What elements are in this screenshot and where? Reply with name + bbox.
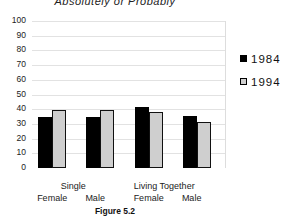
x-group-label: Living Together — [134, 181, 195, 191]
bar-1984-3 — [183, 116, 197, 168]
chart-title: Absolutely or Probably — [0, 0, 230, 7]
y-tick-label: 50 — [0, 89, 26, 99]
y-tick-label: 30 — [0, 118, 26, 128]
bar-1994-0 — [52, 110, 66, 168]
y-tick-label: 90 — [0, 30, 26, 40]
gridline — [32, 65, 225, 66]
legend-label: 1984 — [251, 53, 281, 65]
legend-swatch-icon — [240, 78, 247, 85]
x-category-label: Male — [182, 193, 202, 203]
y-tick-label: 100 — [0, 15, 26, 25]
bar-1994-1 — [100, 110, 114, 168]
bar-1984-2 — [135, 107, 149, 168]
y-tick-label: 20 — [0, 133, 26, 143]
gridline — [32, 95, 225, 96]
y-tick-label: 80 — [0, 44, 26, 54]
y-tick-label: 70 — [0, 59, 26, 69]
legend-item-1984: 1984 — [240, 52, 281, 65]
y-tick-label: 10 — [0, 147, 26, 157]
x-category-label: Female — [134, 193, 164, 203]
legend: 19841994 — [240, 52, 281, 98]
x-category-label: Male — [85, 193, 105, 203]
legend-label: 1994 — [251, 76, 281, 88]
bar-1994-2 — [149, 112, 163, 168]
legend-item-1994: 1994 — [240, 75, 281, 88]
gridline — [32, 80, 225, 81]
y-tick-label: 40 — [0, 103, 26, 113]
bar-1984-1 — [86, 117, 100, 168]
bar-1984-0 — [38, 117, 52, 168]
gridline — [32, 21, 225, 22]
bar-1994-3 — [197, 122, 211, 168]
y-tick-label: 60 — [0, 74, 26, 84]
gridline — [32, 36, 225, 37]
y-tick-label: 0 — [0, 162, 26, 172]
x-group-label: Single — [61, 181, 86, 191]
legend-swatch-icon — [240, 55, 247, 62]
gridline — [32, 50, 225, 51]
x-category-label: Female — [37, 193, 67, 203]
plot-area — [32, 21, 226, 168]
figure-caption: Figure 5.2 — [0, 206, 230, 216]
